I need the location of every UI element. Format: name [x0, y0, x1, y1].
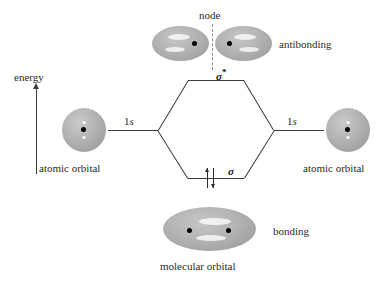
- atomic-level-line-left: [108, 130, 158, 131]
- nucleus-dot: [187, 228, 192, 233]
- nucleus-dot: [192, 41, 197, 46]
- atomic-orbital-caption-left: atomic orbital: [39, 163, 100, 174]
- orbital-highlight: [82, 121, 86, 124]
- nucleus-dot: [227, 41, 232, 46]
- antibonding-orbital-right-lobe: [215, 26, 272, 61]
- antibonding-label: antibonding: [279, 39, 332, 50]
- electron-arrow-spin-down: [213, 168, 214, 188]
- atomic-orbital-caption-right: atomic orbital: [303, 163, 364, 174]
- antibonding-energy-level: [188, 80, 244, 81]
- mo-diagram-canvas: energy node antibonding σ* σ 1s atomic o…: [0, 0, 392, 282]
- orbital-highlight: [165, 47, 185, 52]
- antibonding-orbital-left-lobe: [152, 26, 209, 61]
- nucleus-dot: [345, 127, 350, 132]
- atomic-level-line-right: [274, 130, 324, 131]
- bonding-molecular-orbital: [163, 207, 256, 251]
- sigma-star-asterisk: *: [222, 67, 227, 77]
- orbital-highlight: [168, 34, 190, 40]
- atomic-orbital-right: [326, 108, 370, 152]
- correlation-line-lower-left: [157, 130, 188, 179]
- node-label: node: [199, 10, 220, 21]
- orbital-highlight: [346, 136, 350, 139]
- orbital-highlight: [196, 235, 226, 241]
- atomic-level-label-left: 1s: [124, 116, 134, 127]
- orbital-highlight: [199, 218, 231, 225]
- energy-axis-arrow: [36, 88, 37, 174]
- nucleus-dot: [226, 228, 231, 233]
- orbital-highlight: [239, 47, 259, 52]
- electron-arrow-spin-up: [207, 168, 208, 188]
- nucleus-dot: [81, 127, 86, 132]
- orbital-highlight: [234, 34, 256, 40]
- molecular-orbital-caption: molecular orbital: [160, 261, 235, 272]
- correlation-line-upper-right: [243, 80, 274, 130]
- level-orbital-letter-left: s: [130, 115, 134, 127]
- orbital-highlight: [346, 121, 350, 124]
- bonding-label: bonding: [273, 226, 309, 237]
- correlation-line-upper-left: [158, 80, 189, 130]
- sigma-label: σ: [228, 166, 234, 177]
- correlation-line-lower-right: [244, 130, 275, 179]
- orbital-highlight: [82, 136, 86, 139]
- energy-axis-label: energy: [14, 72, 44, 83]
- node-dashed-line: [212, 24, 213, 70]
- bonding-energy-level: [188, 178, 244, 179]
- level-orbital-letter-right: s: [293, 115, 297, 127]
- atomic-level-label-right: 1s: [287, 116, 297, 127]
- atomic-orbital-left: [62, 108, 106, 152]
